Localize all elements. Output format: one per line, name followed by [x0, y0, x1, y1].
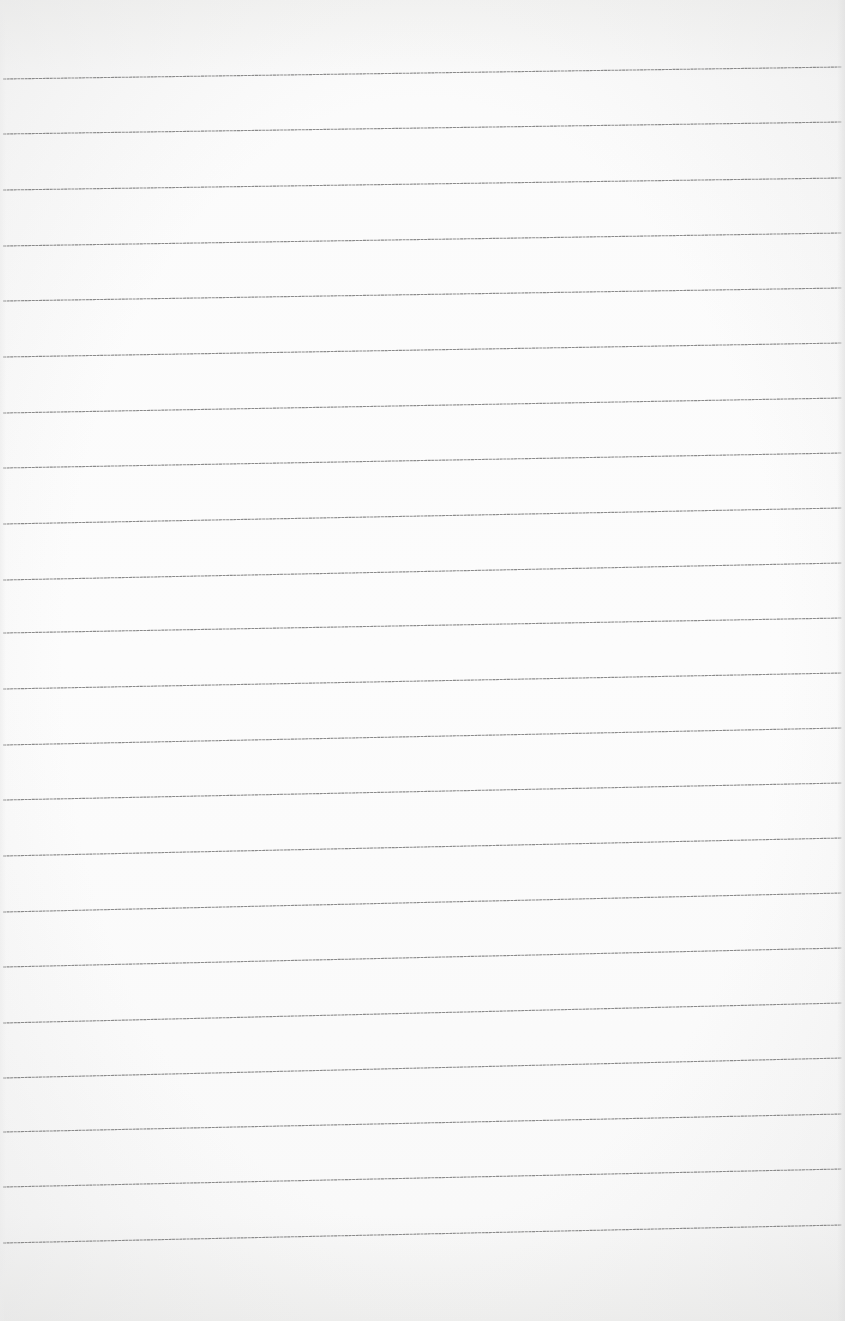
ruled-line: [3, 233, 842, 246]
ruled-line: [3, 728, 842, 745]
ruled-line: [3, 122, 842, 134]
ruled-line: [3, 1003, 842, 1023]
ruled-line: [3, 508, 842, 524]
ruled-line: [3, 1225, 842, 1243]
ruled-line: [3, 1058, 842, 1078]
ruled-line: [3, 838, 842, 856]
lined-paper-page: [0, 0, 845, 1321]
ruled-lines: [0, 0, 845, 1321]
ruled-line: [3, 1169, 842, 1187]
ruled-line: [3, 948, 842, 967]
ruled-line: [3, 67, 842, 79]
ruled-line: [3, 343, 842, 357]
ruled-line: [3, 673, 842, 689]
ruled-line: [3, 178, 842, 190]
ruled-line: [3, 893, 842, 912]
ruled-line: [3, 563, 842, 580]
ruled-line: [3, 618, 842, 633]
ruled-line: [3, 398, 842, 413]
ruled-line: [3, 453, 842, 468]
ruled-line: [3, 288, 842, 301]
ruled-line: [3, 783, 842, 800]
ruled-line: [3, 1114, 842, 1132]
